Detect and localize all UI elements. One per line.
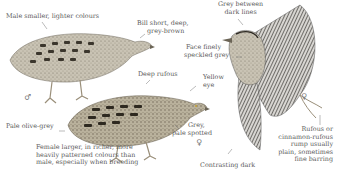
label-contrasting: Contrasting dark bbox=[200, 162, 255, 170]
label-pale-olive: Pale olive-grey bbox=[6, 123, 54, 131]
female-symbol-middle: ♀ bbox=[196, 139, 202, 147]
label-male-note: Male smaller, lighter colours bbox=[6, 13, 99, 21]
male-quail-drawing bbox=[10, 34, 155, 103]
female-symbol-right: ♀ bbox=[301, 93, 307, 101]
label-grey-spotted: Grey, pale spotted bbox=[172, 122, 212, 137]
label-rump: Rufous or cinnamon-rufous rump usually p… bbox=[278, 126, 333, 164]
label-head-lines: Grey between dark lines bbox=[218, 1, 263, 16]
label-bill: Bill short, deep, grey-brown bbox=[137, 20, 189, 35]
label-face: Face finely speckled grey bbox=[184, 44, 229, 59]
male-symbol: ♂ bbox=[24, 94, 31, 102]
label-deep-rufous: Deep rufous bbox=[138, 71, 178, 79]
label-female-note: Female larger, in richer, more heavily p… bbox=[36, 144, 138, 167]
label-eye: Yellow eye bbox=[203, 74, 224, 89]
